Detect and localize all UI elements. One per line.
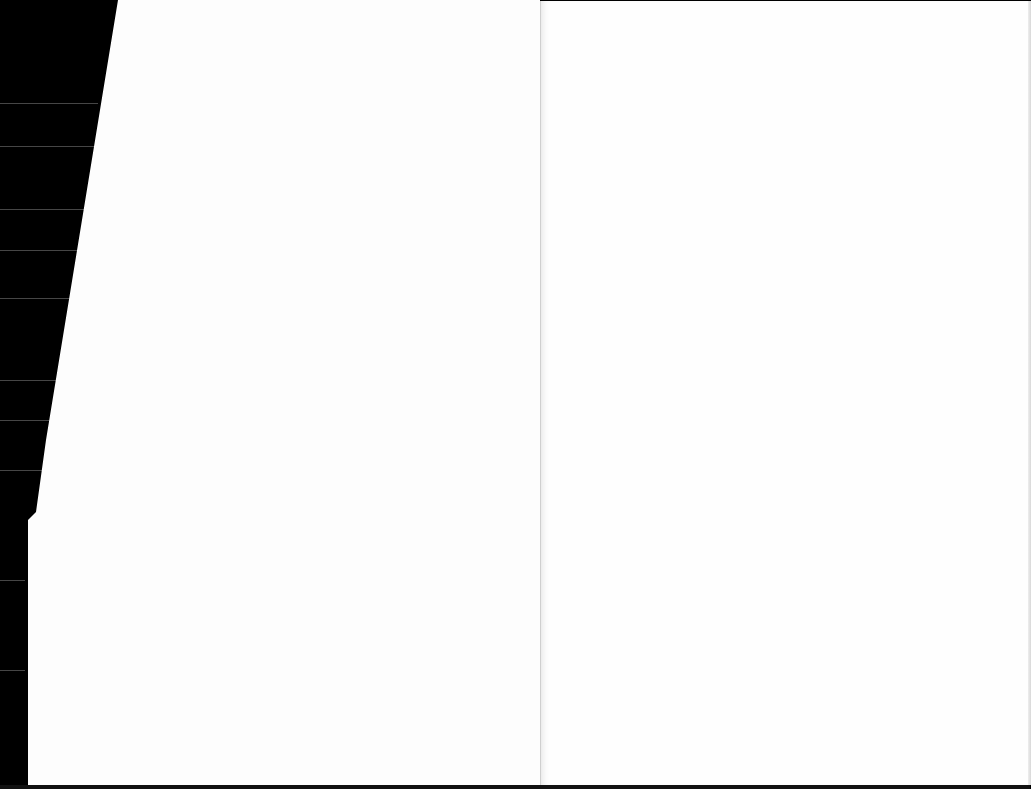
right-page bbox=[540, 1, 1031, 785]
streak bbox=[0, 470, 45, 471]
streak bbox=[0, 298, 70, 299]
streak bbox=[0, 420, 55, 421]
streak bbox=[0, 380, 60, 381]
streak bbox=[0, 250, 80, 251]
streak bbox=[0, 580, 25, 581]
bottom-edge bbox=[0, 785, 1030, 789]
streak bbox=[0, 103, 98, 104]
streak bbox=[0, 209, 85, 210]
streak bbox=[0, 146, 95, 147]
streak bbox=[0, 670, 25, 671]
